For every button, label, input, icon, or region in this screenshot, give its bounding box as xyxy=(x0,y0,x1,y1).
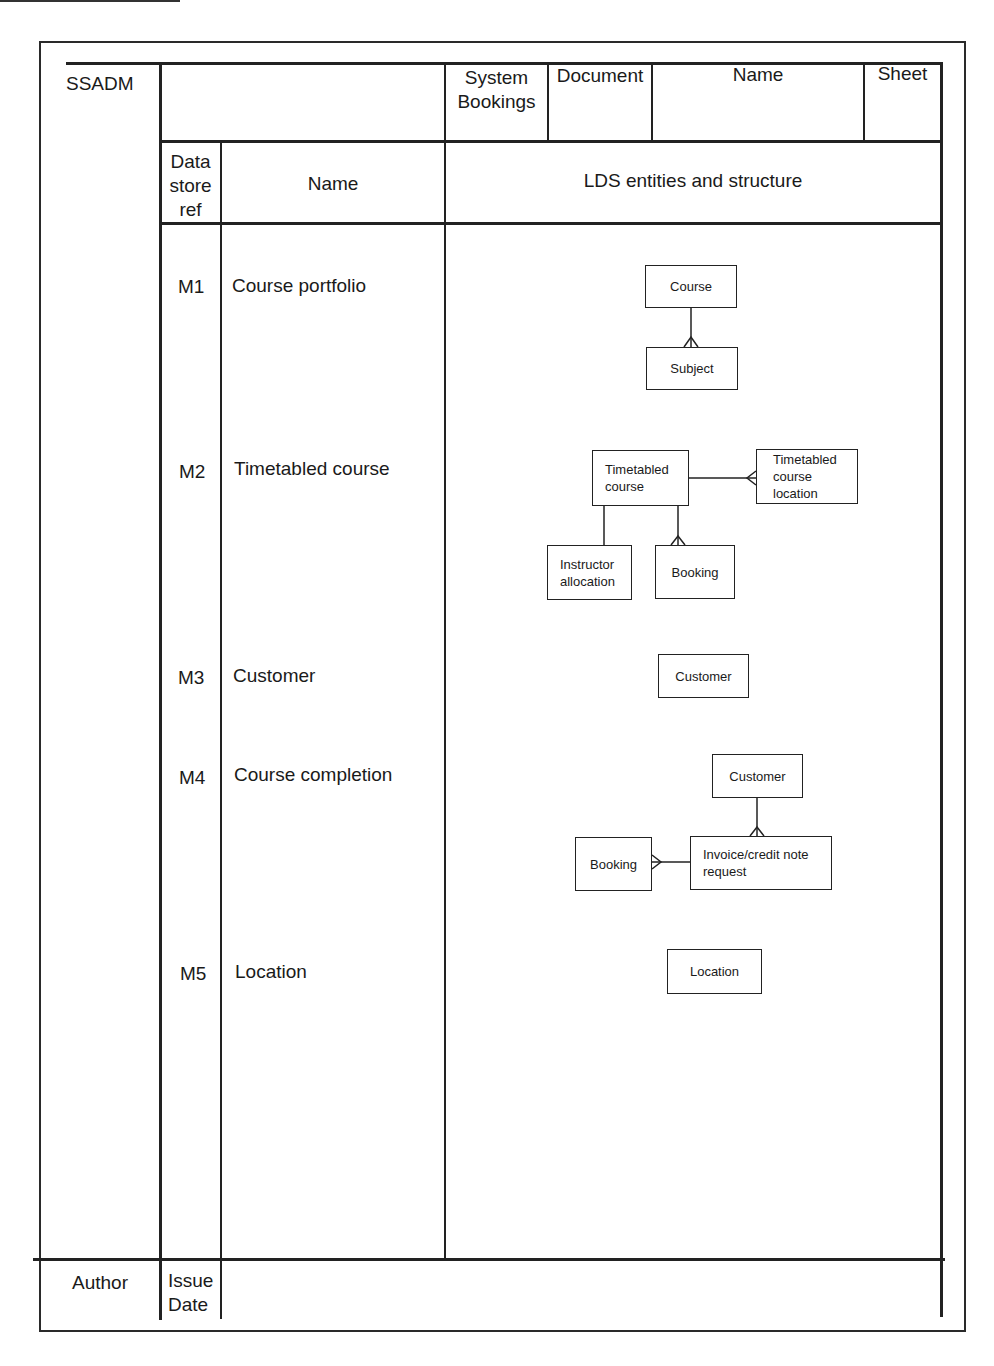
issue-date-label: Issue Date xyxy=(168,1269,213,1317)
entity-customer-m4: Customer xyxy=(712,754,803,798)
footer-rule xyxy=(33,1258,945,1261)
entity-booking-m2: Booking xyxy=(655,545,735,599)
row-name-m2: Timetabled course xyxy=(234,457,390,481)
entity-booking-m4: Booking xyxy=(575,837,652,891)
ref-column-header: Data store ref xyxy=(161,150,220,222)
author-label: Author xyxy=(72,1271,128,1295)
row-ref-m2: M2 xyxy=(179,460,205,484)
row-name-m4: Course completion xyxy=(234,763,392,787)
structure-column-header: LDS entities and structure xyxy=(446,169,940,193)
row-ref-m3: M3 xyxy=(178,666,204,690)
system-value: Bookings xyxy=(446,90,547,114)
entity-invoice-credit-note-request: Invoice/credit noterequest xyxy=(690,836,832,890)
structure-column-divider xyxy=(444,63,446,1260)
entity-subject: Subject xyxy=(646,347,738,390)
ref-name-divider xyxy=(220,142,222,1319)
row-name-m5: Location xyxy=(235,960,307,984)
name-column-header: Name xyxy=(222,172,444,196)
entity-instructor-allocation: Instructorallocation xyxy=(547,545,632,600)
system-field: System Bookings xyxy=(446,66,547,114)
right-border xyxy=(940,63,943,1317)
entity-timetabled-course: Timetabledcourse xyxy=(592,450,689,506)
row-ref-m5: M5 xyxy=(180,962,206,986)
row-ref-m4: M4 xyxy=(179,766,205,790)
row-name-m1: Course portfolio xyxy=(232,274,366,298)
entity-location: Location xyxy=(667,949,762,994)
entity-course: Course xyxy=(645,265,737,308)
entity-timetabled-course-location: Timetabledcourselocation xyxy=(756,449,858,504)
name-label: Name xyxy=(653,63,863,87)
document-label: Document xyxy=(549,64,651,88)
system-label: System xyxy=(446,66,547,90)
row-ref-m1: M1 xyxy=(178,275,204,299)
method-column-divider xyxy=(159,62,162,1320)
page-edge-rule xyxy=(0,0,180,2)
method-label: SSADM xyxy=(66,72,134,96)
sheet-label: Sheet xyxy=(865,62,940,86)
header-rule xyxy=(160,140,943,143)
column-header-rule xyxy=(160,222,943,225)
row-name-m3: Customer xyxy=(233,664,315,688)
entity-customer-m3: Customer xyxy=(658,654,749,698)
